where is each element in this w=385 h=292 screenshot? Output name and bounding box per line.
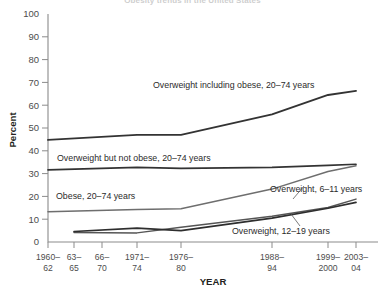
y-tick-label: 80 [28,54,39,65]
x-tick-label: 1999– [316,252,340,262]
series-label: Overweight, 6–11 years [270,184,363,194]
x-tick-label: 74 [132,263,142,273]
series-line [48,91,356,140]
y-tick-label: 10 [28,214,39,225]
series-line [48,164,356,170]
y-axis-ticks: 0102030405060708090100 [23,8,48,247]
y-tick-label: 60 [28,100,39,111]
x-tick-label: 80 [176,263,186,273]
x-tick-label: 1988– [260,252,284,262]
y-tick-label: 0 [34,236,39,247]
y-tick-label: 30 [28,168,39,179]
y-tick-label: 50 [28,122,39,133]
y-tick-label: 90 [28,31,39,42]
x-tick-label: 1960– [36,252,60,262]
y-tick-label: 40 [28,145,39,156]
x-tick-label: 70 [97,263,107,273]
x-tick-label: 65 [69,263,79,273]
y-axis-title: Percent [7,112,18,148]
x-tick-label: 04 [351,263,361,273]
x-tick-label: 1971– [125,252,149,262]
y-tick-label: 70 [28,77,39,88]
x-axis-ticks: 1960–6263–6566–701971–741976–801988–9419… [36,242,368,273]
x-tick-label: 2000 [318,263,337,273]
x-tick-label: 1976– [169,252,193,262]
x-tick-label: 62 [43,263,53,273]
x-tick-label: 63– [67,252,82,262]
y-tick-label: 100 [23,8,39,19]
series-label: Overweight, 12–19 years [232,226,330,236]
series-label: Overweight but not obese, 20–74 years [57,153,211,163]
y-tick-label: 20 [28,191,39,202]
x-tick-label: 2003– [344,252,368,262]
chart-container: Obesity trends in the United States 0102… [0,0,385,292]
x-tick-label: 66– [95,252,110,262]
series-label: Obese, 20–74 years [56,191,136,201]
x-tick-label: 94 [267,263,277,273]
series-label: Overweight including obese, 20–74 years [153,80,315,90]
chart-plot: 0102030405060708090100 1960–6263–6566–70… [0,0,385,292]
x-axis-title: YEAR [200,276,227,287]
series-annotations: Overweight including obese, 20–74 yearsO… [56,80,363,236]
